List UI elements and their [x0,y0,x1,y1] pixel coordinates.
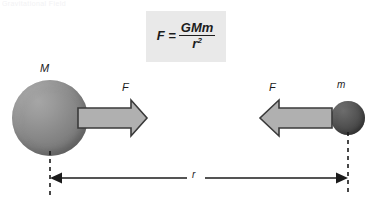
formula-expression: F = GMm r2 [157,21,216,51]
large-mass-sphere [12,80,88,156]
formula-left-hand-side: F = [157,29,176,42]
distance-arrowhead-left [50,173,62,184]
formula-denominator: r2 [190,36,204,50]
force-arrow-right [78,100,147,136]
formula-fraction: GMm r2 [179,21,216,51]
large-mass-label: M [40,63,49,74]
faint-header-text: Gravitational Field [2,0,122,9]
gravitation-diagram: Gravitational Field F = GMm r2 M m F F [0,0,376,207]
distance-label: r [188,170,199,180]
formula-numerator: GMm [179,21,216,35]
small-mass-label: m [337,80,345,90]
formula-box: F = GMm r2 [146,11,226,62]
force-arrow-left [260,100,332,136]
formula-denominator-exponent: 2 [197,36,201,45]
force-label-on-large-mass: F [122,82,129,93]
distance-arrowhead-right [336,173,348,184]
force-label-on-small-mass: F [269,82,276,93]
small-mass-sphere [331,101,365,135]
